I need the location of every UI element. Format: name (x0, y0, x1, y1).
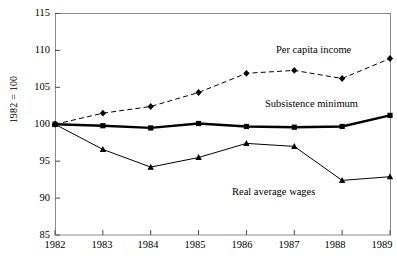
data-point-marker (148, 103, 154, 110)
data-point-marker (244, 124, 249, 129)
series-label-per-capita-income: Per capita income (276, 44, 351, 55)
series-label-subsistence-minimum: Subsistence minimum (265, 98, 358, 109)
data-point-marker (292, 125, 297, 130)
data-point-marker (387, 173, 393, 179)
data-point-marker (100, 146, 106, 152)
series-line (55, 124, 390, 180)
series-per-capita-income (52, 55, 393, 128)
data-point-marker (387, 113, 392, 118)
data-point-marker (387, 55, 393, 62)
data-point-marker (100, 110, 106, 117)
data-point-marker (340, 124, 345, 129)
chart-plot-area (0, 0, 397, 256)
series-label-real-average-wages: Real average wages (232, 186, 315, 197)
data-point-marker (243, 70, 249, 77)
x-axis-ticks (55, 230, 390, 235)
data-point-marker (100, 123, 105, 128)
chart-figure: 1982 = 100 115 110 105 100 95 90 85 1982… (0, 0, 397, 256)
data-point-marker (243, 140, 249, 146)
series-real-average-wages (52, 121, 393, 183)
data-point-marker (196, 89, 202, 96)
series-line (55, 59, 390, 125)
data-point-marker (291, 67, 297, 74)
data-point-marker (196, 121, 201, 126)
data-point-marker (339, 75, 345, 82)
data-series-group (52, 55, 393, 183)
data-point-marker (148, 125, 153, 130)
